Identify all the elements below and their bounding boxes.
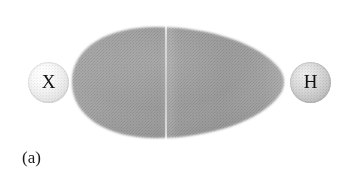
atom-sphere-h: H: [290, 62, 331, 103]
atom-sphere-x: X: [28, 62, 69, 103]
electron-density-lobe: [64, 25, 290, 140]
atom-label-x: X: [42, 72, 56, 91]
atom-label-h: H: [304, 72, 318, 91]
figure-panel: X H (a): [0, 0, 347, 180]
panel-caption: (a): [22, 148, 41, 168]
